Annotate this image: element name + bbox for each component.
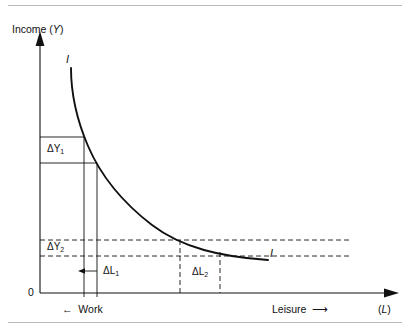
delta-l2-text: ΔL [192,266,204,277]
delta-l1-text: ΔL [103,265,115,276]
work-annotation: ← Work [62,304,103,315]
delta-l2-subscript: 2 [204,271,208,278]
x-axis-title: (L) [378,304,391,315]
indifference-curve [71,68,268,260]
delta-y2-subscript: 2 [60,246,64,253]
delta-y2-label: ΔY2 [47,242,64,253]
delta-l1-subscript: 1 [115,270,119,277]
leisure-arrow-icon: ⟶ [312,303,328,315]
work-label: Work [78,303,102,315]
origin-label: 0 [28,287,34,298]
delta-l1-arrow [78,268,97,274]
y-axis-title-text: Income [12,23,46,35]
curve-label-right: I [270,248,273,259]
y-axis-title: Income (Y) [12,24,63,35]
x-axis-ticks [84,293,97,297]
delta-y1-label: ΔY1 [47,144,64,155]
delta-y1-subscript: 1 [60,148,64,155]
delta-y2-text: ΔY [47,241,60,252]
curve-label-top: I [66,54,69,65]
y-axis [36,31,45,293]
leisure-label: Leisure [272,303,306,315]
delta-y1-text: ΔY [47,143,60,154]
plot-area [0,0,410,332]
y-axis-symbol: Y [53,23,60,35]
leisure-annotation: Leisure ⟶ [272,304,328,315]
indifference-curve-figure: Income (Y) I I ΔY1 ΔY2 ΔL1 ΔL2 0 ← Work … [0,0,410,332]
work-arrow-icon: ← [62,303,73,315]
x-axis [40,289,399,298]
delta-l2-label: ΔL2 [192,267,208,278]
delta-l1-label: ΔL1 [103,266,119,277]
